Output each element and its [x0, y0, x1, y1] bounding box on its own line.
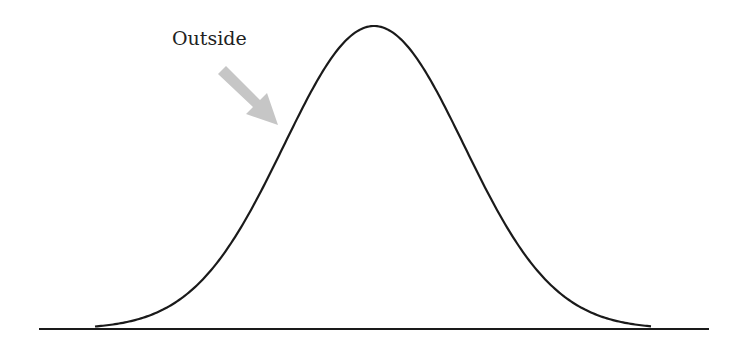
bell-curve-diagram: Outside: [0, 0, 748, 348]
outside-label: Outside: [172, 27, 247, 49]
arrow-down-right-icon: [218, 66, 278, 125]
annotation-arrow: [218, 66, 278, 125]
bell-curve: [95, 26, 651, 327]
